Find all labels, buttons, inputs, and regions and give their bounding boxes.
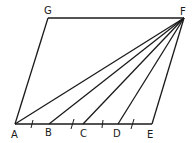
segment-GA [15, 18, 48, 124]
point-label-b: B [45, 127, 52, 138]
point-label-f: F [180, 6, 186, 17]
segment-BF [49, 18, 184, 124]
tick-mark-CD [102, 120, 103, 128]
segment-DF [118, 18, 184, 124]
point-label-c: C [80, 128, 87, 139]
parallelogram-and-lines [15, 18, 184, 124]
segment-CF [83, 18, 184, 124]
point-label-d: D [113, 128, 121, 139]
point-label-e: E [147, 129, 153, 140]
segment-AF [15, 18, 184, 124]
point-label-a: A [11, 129, 18, 140]
point-label-g: G [44, 5, 52, 16]
geometry-diagram: G F A B C D E [0, 0, 193, 143]
